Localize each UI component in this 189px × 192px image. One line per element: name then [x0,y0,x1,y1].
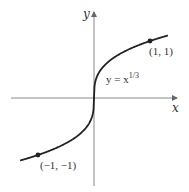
point-neg1-neg1 [36,153,41,158]
y-axis-label: y [82,7,90,21]
point-1-1 [148,39,153,44]
point-neg1-neg1-label: (−1, −1) [40,159,77,172]
function-label-main: y = x [106,73,129,85]
function-label: y = x1/3 [106,71,139,85]
function-label-exponent: 1/3 [129,71,139,80]
x-axis-label: x [172,101,179,115]
point-1-1-label: (1, 1) [149,45,173,58]
cube-root-graph: y x (1, 1) (−1, −1) y = x1/3 [0,0,189,192]
